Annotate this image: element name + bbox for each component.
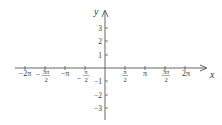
x-tick-label: π bbox=[143, 69, 147, 78]
x-axis-label: x bbox=[209, 69, 215, 80]
x-tick-label-num: π bbox=[84, 68, 88, 75]
x-tick-label: −π bbox=[61, 69, 70, 78]
x-tick-label-num: π bbox=[123, 68, 127, 75]
minus-sign: − bbox=[36, 70, 41, 79]
y-tick-label: 3 bbox=[98, 24, 102, 33]
y-tick-label: −3 bbox=[94, 104, 102, 113]
x-tick-label-num: 3π bbox=[163, 68, 170, 75]
x-tick-label-den: 2 bbox=[84, 76, 87, 83]
y-tick-label: 1 bbox=[98, 51, 102, 60]
y-tick-labels: 3 2 1 −1 −2 −3 bbox=[94, 24, 102, 113]
coordinate-plane: x y −2π − 3π 2 −π − π 2 π 2 π 3π bbox=[0, 0, 222, 125]
y-tick-label: −1 bbox=[94, 77, 102, 86]
y-tick-label: −2 bbox=[94, 91, 102, 100]
y-axis-label: y bbox=[93, 6, 99, 17]
x-tick-labels: −2π − 3π 2 −π − π 2 π 2 π 3π 2 2π bbox=[19, 68, 190, 83]
y-tick-label: 2 bbox=[98, 37, 102, 46]
x-tick-label-den: 2 bbox=[44, 76, 47, 83]
x-tick-label-den: 2 bbox=[164, 76, 167, 83]
x-tick-label: −2π bbox=[19, 69, 32, 78]
x-tick-label-den: 2 bbox=[123, 76, 126, 83]
minus-sign: − bbox=[77, 74, 82, 83]
x-tick-label: 2π bbox=[182, 69, 190, 78]
x-tick-label-num: 3π bbox=[43, 68, 50, 75]
